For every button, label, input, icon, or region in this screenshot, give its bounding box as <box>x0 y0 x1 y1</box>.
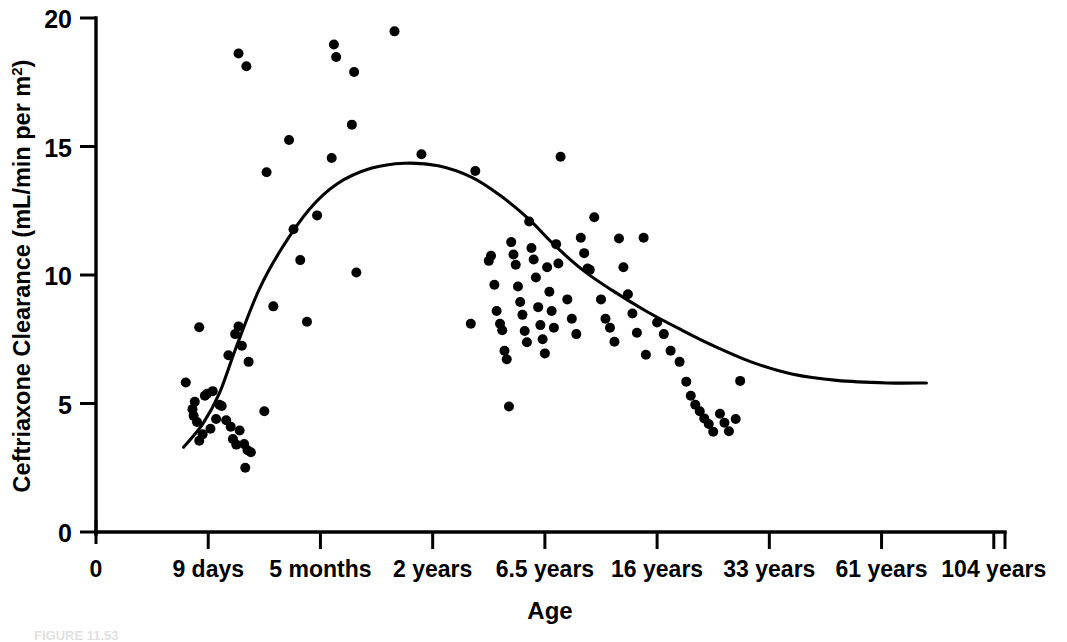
data-point <box>571 329 581 339</box>
x-tick-label-6: 33 years <box>723 556 815 582</box>
data-point <box>237 341 247 351</box>
data-point <box>489 280 499 290</box>
data-point <box>289 224 299 234</box>
data-point <box>556 152 566 162</box>
data-point <box>517 310 527 320</box>
data-point <box>681 377 691 387</box>
data-point <box>675 357 685 367</box>
data-point <box>234 48 244 58</box>
x-tick-label-0: 0 <box>90 556 103 582</box>
data-point <box>542 262 552 272</box>
data-point <box>302 317 312 327</box>
x-tick-label-1: 9 days <box>172 556 244 582</box>
data-point <box>234 321 244 331</box>
data-point <box>576 233 586 243</box>
data-point <box>531 273 541 283</box>
x-tick-label-2: 5 months <box>269 556 371 582</box>
data-point <box>211 414 221 424</box>
data-point <box>567 314 577 324</box>
x-axis-tick-labels: 09 days5 months2 years6.5 years16 years3… <box>90 556 1047 582</box>
data-point <box>194 322 204 332</box>
data-point <box>579 248 589 258</box>
data-point <box>515 297 525 307</box>
data-point <box>295 255 305 265</box>
x-tick-label-4: 6.5 years <box>496 556 594 582</box>
data-point <box>259 406 269 416</box>
data-point <box>492 306 502 316</box>
data-point <box>504 402 514 412</box>
data-point <box>614 234 624 244</box>
data-point <box>223 350 233 360</box>
x-tick-label-5: 16 years <box>611 556 703 582</box>
data-point <box>217 401 227 411</box>
y-axis-title-superscript: 2 <box>8 67 25 75</box>
data-point <box>719 418 729 428</box>
data-point <box>524 217 534 227</box>
data-point <box>470 166 480 176</box>
data-point <box>506 237 516 247</box>
data-point <box>600 314 610 324</box>
data-point-series <box>181 26 745 472</box>
data-point <box>609 337 619 347</box>
data-point <box>226 422 236 432</box>
data-point <box>529 255 539 265</box>
data-point <box>533 302 543 312</box>
data-point <box>549 323 559 333</box>
data-point <box>502 354 512 364</box>
data-point <box>715 409 725 419</box>
data-point <box>349 67 359 77</box>
data-point <box>623 289 633 299</box>
data-point <box>526 243 536 253</box>
data-point <box>585 265 595 275</box>
y-tick-label-15: 15 <box>44 134 72 162</box>
data-point <box>499 346 509 356</box>
data-point <box>347 120 357 130</box>
figure-container: 05101520 09 days5 months2 years6.5 years… <box>0 0 1067 642</box>
data-point <box>241 61 251 71</box>
data-point <box>589 212 599 222</box>
y-tick-label-5: 5 <box>58 391 72 419</box>
data-point <box>652 318 662 328</box>
data-point <box>181 377 191 387</box>
data-point <box>551 239 561 249</box>
y-axis-title-closeparen: ) <box>9 60 35 68</box>
data-point <box>331 52 341 62</box>
data-point <box>486 251 496 261</box>
y-tick-label-20: 20 <box>44 5 72 33</box>
data-point <box>416 149 426 159</box>
x-axis-title: Age <box>527 597 572 624</box>
data-point <box>268 301 278 311</box>
data-point <box>508 249 518 259</box>
data-point <box>731 414 741 424</box>
data-point <box>390 26 400 36</box>
y-axis-title-group: Ceftriaxone Clearance (mL/min per m2) <box>8 60 35 493</box>
data-point <box>235 425 245 435</box>
x-axis: 09 days5 months2 years6.5 years16 years3… <box>90 520 1047 582</box>
y-axis-title-main: Ceftriaxone Clearance (mL/min per m <box>9 76 35 493</box>
x-axis-ticks <box>96 520 1005 549</box>
data-point <box>208 386 218 396</box>
x-tick-label-7: 61 years <box>836 556 928 582</box>
data-point <box>520 326 530 336</box>
data-point <box>262 167 272 177</box>
data-point <box>547 306 557 316</box>
y-axis-ticks <box>80 18 96 532</box>
data-point <box>522 337 532 347</box>
data-point <box>659 329 669 339</box>
data-point <box>735 376 745 386</box>
data-point <box>562 294 572 304</box>
data-point <box>538 334 548 344</box>
y-axis-tick-labels: 05101520 <box>44 5 72 547</box>
data-point <box>192 417 202 427</box>
data-point <box>327 153 337 163</box>
data-point <box>244 357 254 367</box>
data-point <box>246 447 256 457</box>
data-point <box>240 463 250 473</box>
scatter-chart: 05101520 09 days5 months2 years6.5 years… <box>0 0 1067 642</box>
data-point <box>535 320 545 330</box>
y-axis-title: Ceftriaxone Clearance (mL/min per m2) <box>8 60 35 493</box>
y-axis: 05101520 <box>44 5 96 547</box>
data-point <box>686 391 696 401</box>
data-point <box>540 348 550 358</box>
data-point <box>284 135 294 145</box>
